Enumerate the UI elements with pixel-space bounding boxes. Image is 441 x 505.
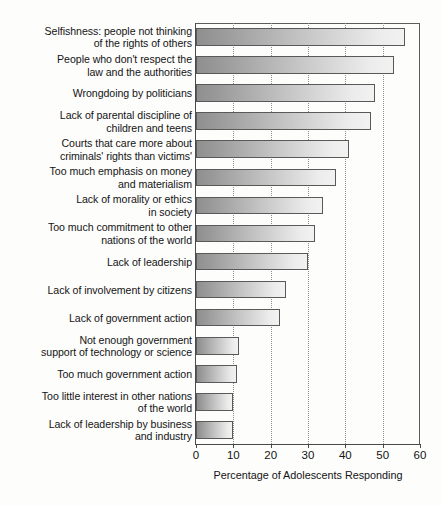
bar: [196, 169, 336, 187]
tick-mark-0: [196, 444, 197, 448]
bar-row: Lack of leadership: [0, 248, 441, 276]
bar-row: Too much commitment to other nations of …: [0, 219, 441, 247]
bar-row: Lack of parental discipline of children …: [0, 107, 441, 135]
bar: [196, 365, 237, 383]
bar-row: Lack of leadership by business and indus…: [0, 416, 441, 444]
tick-mark-10: [233, 444, 234, 448]
bar: [196, 281, 286, 299]
tick-mark-60: [420, 444, 421, 448]
category-label: Wrongdoing by politicians: [12, 87, 192, 99]
category-label: Lack of involvement by citizens: [12, 283, 192, 295]
category-label: Selfishness: people not thinking of the …: [12, 25, 192, 50]
bar-row: Courts that care more about criminals' r…: [0, 135, 441, 163]
bar-row: Too much emphasis on money and materiali…: [0, 163, 441, 191]
bar-row: People who don't respect the law and the…: [0, 51, 441, 79]
category-label: Lack of parental discipline of children …: [12, 109, 192, 134]
tick-label-10: 10: [227, 449, 240, 461]
tick-mark-50: [383, 444, 384, 448]
bar-row: Not enough government support of technol…: [0, 332, 441, 360]
bar-rows: Selfishness: people not thinking of the …: [0, 23, 441, 444]
bar: [196, 253, 308, 271]
bar: [196, 197, 323, 215]
tick-label-0: 0: [193, 449, 199, 461]
bar-row: Too little interest in other nations of …: [0, 388, 441, 416]
bar-row: Too much government action: [0, 360, 441, 388]
bar: [196, 140, 349, 158]
tick-mark-30: [308, 444, 309, 448]
tick-label-60: 60: [414, 449, 427, 461]
category-label: Not enough government support of technol…: [12, 333, 192, 358]
bar: [196, 309, 280, 327]
tick-mark-40: [345, 444, 346, 448]
bar: [196, 56, 394, 74]
tick-label-30: 30: [302, 449, 315, 461]
category-label: Lack of government action: [12, 311, 192, 323]
category-label: Lack of morality or ethics in society: [12, 193, 192, 218]
bar: [196, 421, 233, 439]
bar-row: Lack of involvement by citizens: [0, 276, 441, 304]
bar: [196, 225, 315, 243]
category-label: Too much commitment to other nations of …: [12, 221, 192, 246]
category-label: People who don't respect the law and the…: [12, 53, 192, 78]
tick-label-50: 50: [376, 449, 389, 461]
bar-row: Lack of government action: [0, 304, 441, 332]
tick-label-20: 20: [264, 449, 277, 461]
bar: [196, 393, 233, 411]
bar: [196, 337, 239, 355]
bar-row: Lack of morality or ethics in society: [0, 191, 441, 219]
category-label: Lack of leadership: [12, 255, 192, 267]
bar-row: Wrongdoing by politicians: [0, 79, 441, 107]
bar: [196, 84, 375, 102]
tick-mark-20: [271, 444, 272, 448]
x-axis-title: Percentage of Adolescents Responding: [196, 469, 420, 481]
category-label: Too little interest in other nations of …: [12, 389, 192, 414]
category-label: Lack of leadership by business and indus…: [12, 418, 192, 443]
category-label: Too much emphasis on money and materiali…: [12, 165, 192, 190]
bar-row: Selfishness: people not thinking of the …: [0, 23, 441, 51]
category-label: Too much government action: [12, 368, 192, 380]
category-label: Courts that care more about criminals' r…: [12, 137, 192, 162]
bar-chart: Selfishness: people not thinking of the …: [0, 0, 441, 505]
tick-label-40: 40: [339, 449, 352, 461]
bar: [196, 28, 405, 46]
bar: [196, 112, 371, 130]
